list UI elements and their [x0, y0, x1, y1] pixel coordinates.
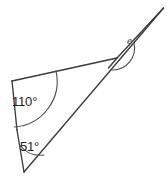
- geometry-figure: 110° 51° e: [0, 0, 167, 182]
- geometry-canvas: [0, 0, 167, 182]
- angle-label-e: e: [127, 35, 132, 46]
- arc-angle-e: [112, 43, 135, 70]
- segment-upper-left-to-interior: [12, 58, 117, 81]
- angle-label-110: 110°: [12, 95, 37, 108]
- angle-label-51: 51°: [20, 140, 39, 153]
- segment-bottom-to-apex: [24, 8, 164, 172]
